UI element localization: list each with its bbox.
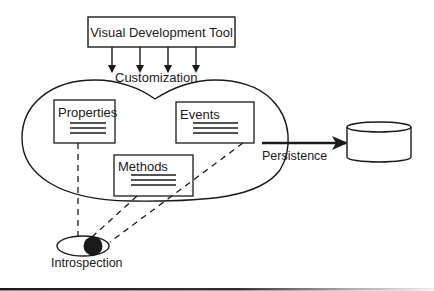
visual-development-tool-label: Visual Development Tool: [88, 17, 235, 47]
database-cylinder-icon: [347, 122, 411, 162]
persistence-label: Persistence: [262, 150, 327, 163]
customization-arrows: [112, 47, 196, 71]
bottom-rule: [0, 288, 434, 291]
eye-icon: [57, 236, 109, 256]
events-label: Events: [180, 108, 220, 121]
properties-label: Properties: [58, 106, 117, 119]
methods-label: Methods: [118, 160, 168, 173]
customization-label: Customization: [115, 71, 197, 84]
methods-introspection-line: [92, 196, 137, 237]
introspection-label: Introspection: [51, 257, 123, 270]
